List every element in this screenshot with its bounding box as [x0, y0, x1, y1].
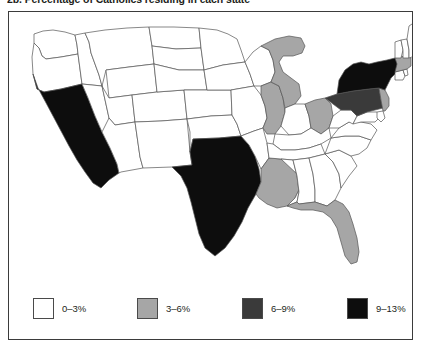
state-NM[interactable] — [135, 119, 192, 168]
legend-label-3: 9–13% — [376, 303, 406, 314]
figure-title: 2b. Percentage of Catholics residing in … — [7, 0, 417, 7]
legend: 0–3% 3–6% 6–9% 9–13% — [9, 280, 412, 339]
legend-label-2: 6–9% — [271, 303, 295, 314]
state-NY[interactable] — [337, 58, 399, 94]
us-map-svg — [9, 12, 412, 280]
legend-item-1: 3–6% — [137, 298, 190, 319]
state-ND[interactable] — [149, 27, 201, 49]
state-KS[interactable] — [184, 90, 232, 119]
legend-label-1: 3–6% — [166, 303, 190, 314]
state-CO[interactable] — [132, 90, 187, 122]
state-MA[interactable] — [395, 56, 411, 72]
state-DE[interactable] — [377, 111, 385, 122]
legend-label-0: 0–3% — [62, 303, 86, 314]
legend-item-0: 0–3% — [33, 298, 86, 319]
state-FL[interactable] — [287, 200, 359, 264]
figure-root: 2b. Percentage of Catholics residing in … — [0, 0, 424, 351]
legend-swatch-2 — [242, 298, 263, 319]
map-panel: 0–3% 3–6% 6–9% 9–13% — [8, 11, 413, 340]
us-choropleth-map — [9, 12, 412, 280]
legend-swatch-3 — [347, 298, 368, 319]
legend-item-2: 6–9% — [242, 298, 295, 319]
legend-swatch-0 — [33, 298, 54, 319]
legend-swatch-1 — [137, 298, 158, 319]
legend-item-3: 9–13% — [347, 298, 406, 319]
